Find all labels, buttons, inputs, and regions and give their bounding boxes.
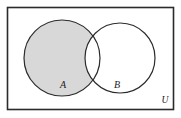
set-label-b: B (114, 79, 120, 90)
venn-diagram-figure: A B U (0, 0, 181, 118)
set-label-a: A (59, 79, 67, 90)
universal-set-label: U (162, 95, 170, 105)
shaded-region-a-minus-b (0, 0, 181, 118)
venn-diagram-svg: A B U (0, 0, 181, 118)
